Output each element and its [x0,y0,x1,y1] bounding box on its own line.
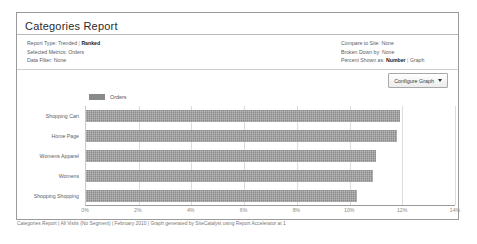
configure-graph-button[interactable]: Configure Graph [388,73,448,88]
bar-row [86,190,455,202]
meta-row-compare-to-site: Compare to Site: None [341,39,424,48]
meta-column-left: Report Type: Trended | Ranked Selected M… [27,39,100,65]
x-tick-label: 12% [397,207,407,213]
meta-value-number[interactable]: Number [386,57,406,63]
bar-series-orders [86,106,455,205]
category-label: Womens Apparel [40,153,79,159]
meta-row-data-filter: Data Filter: None [27,56,100,65]
configure-graph-row: Configure Graph [17,69,458,90]
meta-key-report-type: Report Type: [27,40,57,46]
meta-key-compare-to-site: Compare to Site: [341,40,380,46]
meta-value-compare-to-site: None [381,40,393,46]
configure-graph-label: Configure Graph [394,78,434,84]
category-axis-labels: Shopping CartHome PageWomens ApparelWome… [17,106,83,206]
gridline [455,106,456,205]
meta-sep-percent-shown-as: | [407,57,408,63]
bar-row [86,130,455,142]
bar[interactable] [86,150,376,162]
meta-row-report-type: Report Type: Trended | Ranked [27,39,100,48]
chevron-down-icon [438,79,442,82]
meta-key-selected-metrics: Selected Metrics: [27,49,67,55]
plot-area [85,106,455,206]
meta-value-ranked[interactable]: Ranked [81,40,100,46]
meta-sep-report-type: | [79,40,80,46]
meta-value-data-filter: None [54,57,66,63]
meta-row-broken-down-by: Broken Down by: None [341,48,424,57]
category-label: Shopping Cart [46,113,79,119]
x-tick-label: 4% [187,207,195,213]
bar[interactable] [86,110,400,122]
bar-row [86,110,455,122]
x-tick-label: 0% [81,207,89,213]
meta-value-broken-down-by: None [382,49,394,55]
x-tick-label: 10% [344,207,354,213]
category-label: Shopping Shopping [34,193,79,199]
x-tick-label: 6% [240,207,248,213]
meta-key-broken-down-by: Broken Down by: [341,49,381,55]
report-page: Categories Report Report Type: Trended |… [0,0,477,244]
report-meta: Report Type: Trended | Ranked Selected M… [17,35,458,69]
bar[interactable] [86,170,373,182]
meta-row-percent-shown-as: Percent Shown as: Number | Graph [341,56,424,65]
chart-legend: Orders [89,94,126,100]
x-tick-label: 8% [293,207,301,213]
meta-row-selected-metrics: Selected Metrics: Orders [27,48,100,57]
page-title: Categories Report [25,20,118,32]
report-footer: Categories Report | All Visits (No Segme… [17,221,458,226]
x-tick-label: 2% [134,207,142,213]
meta-value-selected-metrics: Orders [68,49,84,55]
chart-area: Orders Shopping CartHome PageWomens Appa… [17,90,458,218]
meta-value-graph[interactable]: Graph [410,57,424,63]
report-panel: Categories Report Report Type: Trended |… [16,12,459,220]
meta-value-trended[interactable]: Trended [58,40,77,46]
meta-key-data-filter: Data Filter: [27,57,52,63]
legend-label-orders: Orders [110,94,126,100]
bar[interactable] [86,130,397,142]
meta-key-percent-shown-as: Percent Shown as: [341,57,385,63]
bar-row [86,170,455,182]
legend-swatch-orders [89,94,105,100]
category-label: Home Page [52,133,79,139]
bar[interactable] [86,190,357,202]
x-tick-label: 14% [450,207,460,213]
x-axis-tick-labels: 0%2%4%6%8%10%12%14% [85,207,455,217]
bar-row [86,150,455,162]
report-title-bar: Categories Report [17,13,458,35]
meta-column-right: Compare to Site: None Broken Down by: No… [341,39,424,65]
category-label: Womens [59,173,79,179]
